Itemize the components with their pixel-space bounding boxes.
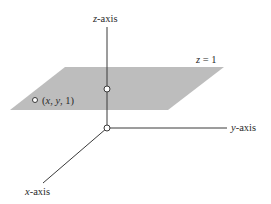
coordinate-diagram: z-axis z = 1 (x, y, 1) y-axis x-axis bbox=[0, 0, 271, 204]
point-x-y-1 bbox=[33, 98, 38, 103]
plane-label: z = 1 bbox=[195, 54, 217, 65]
z-axis-label: z-axis bbox=[92, 13, 118, 24]
y-axis-label: y-axis bbox=[230, 122, 256, 133]
origin-point bbox=[104, 125, 110, 131]
point-label: (x, y, 1) bbox=[42, 95, 75, 107]
x-axis-label: x-axis bbox=[24, 186, 50, 197]
x-axis-line bbox=[43, 128, 107, 183]
z-axis-plane-intersection-point bbox=[104, 86, 110, 92]
